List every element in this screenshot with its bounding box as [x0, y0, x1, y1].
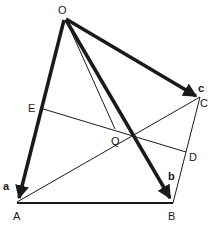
label-A: A [13, 210, 21, 222]
segment-OQ [67, 22, 115, 129]
label-Q: Q [111, 135, 120, 147]
label-B: B [168, 210, 175, 222]
label-E: E [28, 102, 35, 114]
vector-diagram: O A B C D E Q a b c [0, 0, 213, 228]
label-O: O [58, 4, 67, 16]
label-vector-c: c [198, 82, 204, 94]
vector-a [19, 20, 64, 198]
label-vector-b: b [168, 170, 175, 182]
vector-b [66, 20, 170, 198]
vector-c [66, 19, 196, 96]
label-vector-a: a [3, 180, 10, 192]
segment-CB [173, 97, 200, 203]
label-C: C [200, 97, 208, 109]
segment-AC [17, 97, 200, 202]
label-D: D [189, 151, 197, 163]
